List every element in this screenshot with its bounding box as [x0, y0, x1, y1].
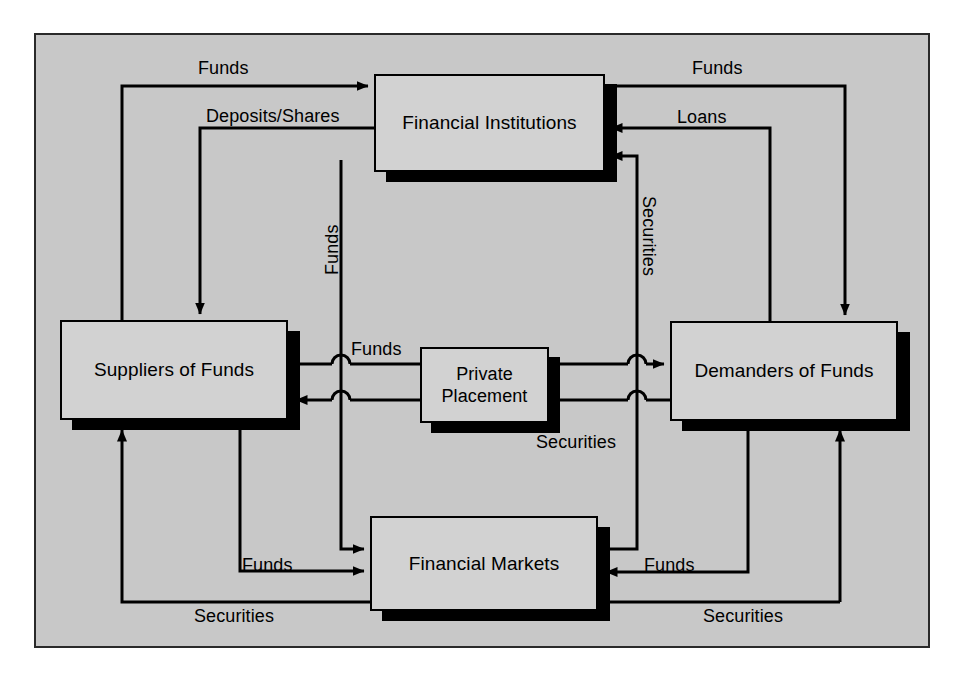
node-financial-markets[interactable]: Financial Markets: [370, 516, 598, 611]
node-private-placement-label: Private Placement: [436, 363, 534, 408]
node-financial-institutions-label: Financial Institutions: [396, 111, 582, 135]
edge-deposits-shares-fi-to-suppliers: [200, 128, 374, 314]
edge-securities-markets-to-suppliers: [122, 430, 370, 602]
edge-label-loans: Loans: [677, 107, 727, 128]
edge-securities-markets-to-fi: [604, 156, 637, 549]
edge-label-bottom-left-securities: Securities: [194, 606, 274, 627]
edge-label-vertical-securities: Securities: [638, 196, 659, 276]
node-private-placement-line2: Placement: [442, 386, 528, 406]
edge-label-vertical-funds: Funds: [322, 224, 343, 275]
node-financial-institutions[interactable]: Financial Institutions: [374, 74, 605, 172]
node-demanders-of-funds-label: Demanders of Funds: [688, 359, 879, 383]
edge-label-deposits-shares: Deposits/Shares: [206, 106, 340, 127]
node-suppliers-of-funds[interactable]: Suppliers of Funds: [60, 320, 288, 420]
node-financial-markets-label: Financial Markets: [403, 552, 566, 576]
edge-label-top-left-funds: Funds: [198, 58, 249, 79]
edge-label-bottom-right-funds: Funds: [644, 555, 695, 576]
edge-label-top-right-funds: Funds: [692, 58, 743, 79]
node-private-placement[interactable]: Private Placement: [420, 347, 549, 423]
diagram-canvas: Financial Institutions Suppliers of Fund…: [0, 0, 960, 680]
node-demanders-of-funds[interactable]: Demanders of Funds: [670, 321, 898, 421]
edge-label-center-securities: Securities: [536, 432, 616, 453]
node-private-placement-line1: Private: [456, 364, 513, 384]
edge-label-center-funds: Funds: [351, 339, 402, 360]
edge-label-bottom-left-funds: Funds: [242, 555, 293, 576]
node-suppliers-of-funds-label: Suppliers of Funds: [88, 358, 260, 382]
edge-label-bottom-right-securities: Securities: [703, 606, 783, 627]
